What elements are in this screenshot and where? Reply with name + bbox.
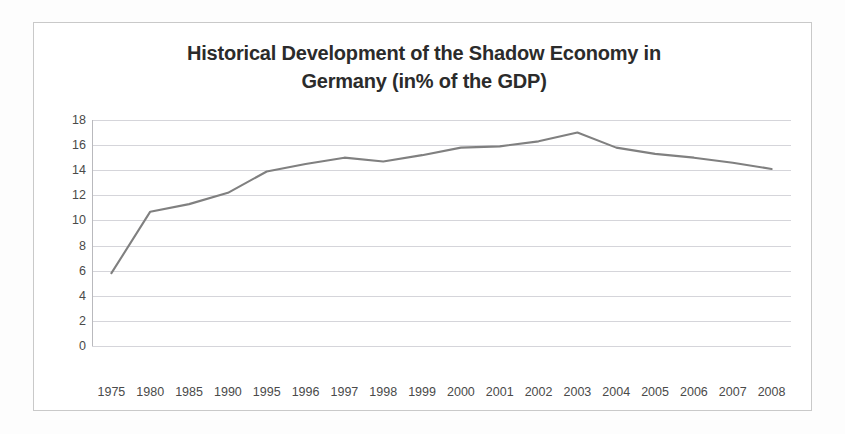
x-axis-tick-1998: 1998 — [369, 385, 397, 399]
x-axis-tick-1985: 1985 — [175, 385, 203, 399]
x-axis-tick-1995: 1995 — [253, 385, 281, 399]
x-axis-tick-1996: 1996 — [292, 385, 320, 399]
series-line-chart — [92, 120, 791, 346]
x-axis-tick-1999: 1999 — [408, 385, 436, 399]
x-axis-tick-1975: 1975 — [98, 385, 126, 399]
chart-frame: Historical Development of the Shadow Eco… — [33, 22, 812, 411]
x-axis-tick-2002: 2002 — [525, 385, 553, 399]
y-axis-tick-12: 12 — [44, 188, 86, 202]
x-axis-tick-1980: 1980 — [136, 385, 164, 399]
x-axis-tick-labels: 1975198019851990199519961997199819992000… — [92, 385, 798, 403]
series-polyline — [111, 133, 771, 274]
y-axis-tick-labels: 181614121086420 — [44, 120, 86, 346]
plot-wrapper: 181614121086420 197519801985199019951996… — [34, 23, 813, 412]
x-axis-tick-1990: 1990 — [214, 385, 242, 399]
x-axis-tick-2006: 2006 — [680, 385, 708, 399]
y-axis-tick-14: 14 — [44, 163, 86, 177]
x-axis-tick-1997: 1997 — [331, 385, 359, 399]
y-axis-tick-8: 8 — [44, 239, 86, 253]
y-axis-tick-4: 4 — [44, 289, 86, 303]
x-axis-tick-2004: 2004 — [602, 385, 630, 399]
x-axis-tick-2003: 2003 — [564, 385, 592, 399]
x-axis-tick-2008: 2008 — [758, 385, 786, 399]
y-axis-tick-6: 6 — [44, 264, 86, 278]
y-axis-tick-2: 2 — [44, 314, 86, 328]
x-axis-tick-2007: 2007 — [719, 385, 747, 399]
y-axis-tick-10: 10 — [44, 213, 86, 227]
x-axis-tick-2001: 2001 — [486, 385, 514, 399]
plot-area — [92, 120, 791, 346]
y-axis-tick-0: 0 — [44, 339, 86, 353]
gridline — [92, 346, 791, 347]
y-axis-tick-18: 18 — [44, 113, 86, 127]
x-axis-tick-2000: 2000 — [447, 385, 475, 399]
y-axis-tick-16: 16 — [44, 138, 86, 152]
x-axis-tick-2005: 2005 — [641, 385, 669, 399]
chart-page: Historical Development of the Shadow Eco… — [0, 0, 845, 434]
